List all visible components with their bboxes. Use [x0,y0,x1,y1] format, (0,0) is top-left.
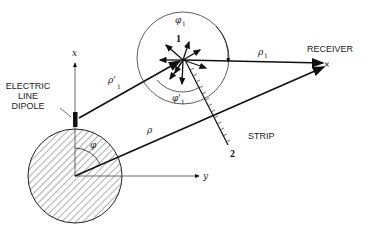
dipole-label-line2: LINE [18,91,38,101]
rho-prime-label: ρ' [107,75,116,85]
x-axis-label: x [72,48,77,58]
svg-text:1: 1 [182,20,186,27]
phi-prime1-label: φ' [172,93,181,103]
edge-1-label: 1 [176,33,181,44]
strip [185,60,230,145]
rho1-label: ρ [257,47,264,57]
phi1-label: φ [175,15,182,25]
rho-label: ρ [146,125,153,135]
dipole-label-line3: DIPOLE [11,101,44,111]
rho1-ray [184,60,323,63]
phi-label: φ [90,140,97,150]
rho-prime-ray [79,61,180,118]
phi-prime1-arc [157,80,200,92]
electric-line-dipole [73,112,78,127]
dipole-label-line1: ELECTRIC [6,81,51,91]
svg-text:1: 1 [264,52,268,59]
diffracted-rays [160,42,206,84]
svg-text:1: 1 [117,83,121,90]
diffraction-diagram: x y φ ELECTRIC LINE DIPOLE ρ' 1 ρ φ 1 φ'… [0,0,370,235]
receiver-mark: × [324,59,330,70]
svg-text:1: 1 [181,98,185,105]
phi1-angle-arrow [216,26,228,62]
edge-2-label: 2 [230,148,235,159]
strip-label: STRIP [248,131,275,141]
receiver-label: RECEIVER [307,44,354,54]
dipole-pointer [60,108,71,117]
y-axis-label: y [202,171,209,181]
